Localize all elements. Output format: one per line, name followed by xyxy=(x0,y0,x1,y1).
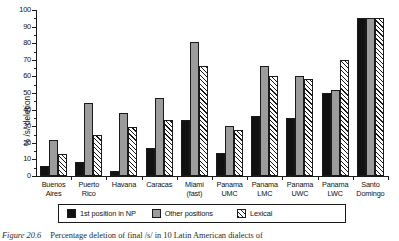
bar xyxy=(49,140,58,176)
x-axis-label: PuertoRico xyxy=(71,180,106,199)
x-axis-label-line: Panama xyxy=(318,180,353,189)
x-axis-label: SantoDomingo xyxy=(353,180,388,199)
bar-group xyxy=(106,10,141,176)
bar-group xyxy=(282,10,317,176)
bar xyxy=(58,154,67,176)
y-tick-label-70: 70 xyxy=(23,56,31,63)
y-tick-label-100: 100 xyxy=(19,6,31,13)
legend-item-lexical: Lexical xyxy=(237,209,272,218)
y-tick-0 xyxy=(32,176,37,177)
bar xyxy=(375,18,384,176)
x-axis-label: Havana xyxy=(106,180,141,189)
diagonal-hatch-swatch-icon xyxy=(237,209,246,218)
legend-label-1: Other positions xyxy=(165,209,213,218)
bar-group xyxy=(353,10,388,176)
bar xyxy=(225,126,234,176)
chart-legend: 1st position in NP Other positions Lexic… xyxy=(58,204,346,223)
y-tick-label-40: 40 xyxy=(23,106,31,113)
bar xyxy=(251,116,260,176)
bar xyxy=(269,76,278,176)
solid-black-swatch-icon xyxy=(67,209,76,218)
figure-caption-text: Percentage deletion of final /s/ in 10 L… xyxy=(50,231,263,240)
bar-group xyxy=(247,10,282,176)
bar xyxy=(93,135,102,177)
bar xyxy=(322,93,331,176)
bar xyxy=(295,76,304,176)
x-axis-label: PanamaUWC xyxy=(282,180,317,199)
bar-group xyxy=(36,10,71,176)
x-axis-label: PanamaLWC xyxy=(318,180,353,199)
x-axis-label: PanamaUMC xyxy=(212,180,247,199)
x-axis-label-line: Santo xyxy=(353,180,388,189)
x-axis-label-line: LMC xyxy=(247,189,282,198)
x-axis-label: BuenosAires xyxy=(36,180,71,199)
dotted-gray-swatch-icon xyxy=(152,209,161,218)
figure-caption: Figure 20.6Percentage deletion of final … xyxy=(2,231,398,241)
x-axis-label-line: Buenos xyxy=(36,180,71,189)
bar-group xyxy=(318,10,353,176)
x-axis-label-line: Caracas xyxy=(142,180,177,189)
bar xyxy=(40,166,49,176)
x-axis-label-line: Panama xyxy=(282,180,317,189)
bar xyxy=(286,118,295,176)
bar-group xyxy=(142,10,177,176)
x-axis-label-line: Aires xyxy=(36,189,71,198)
x-axis-label-line: UWC xyxy=(282,189,317,198)
bar xyxy=(190,42,199,176)
bar xyxy=(199,66,208,176)
bar xyxy=(146,148,155,176)
bar xyxy=(357,18,366,176)
x-axis-label-line: Panama xyxy=(247,180,282,189)
bar xyxy=(128,127,137,176)
bar xyxy=(304,79,313,176)
x-axis-label-line: UMC xyxy=(212,189,247,198)
y-tick-label-20: 20 xyxy=(23,139,31,146)
bar xyxy=(155,98,164,176)
x-axis-label-line: Puerto xyxy=(71,180,106,189)
bar xyxy=(84,103,93,176)
y-tick-label-50: 50 xyxy=(23,89,31,96)
x-axis-label-line: Domingo xyxy=(353,189,388,198)
bar xyxy=(340,60,349,176)
legend-item-other-positions: Other positions xyxy=(152,209,213,218)
legend-label-2: Lexical xyxy=(250,209,272,218)
bar-group xyxy=(212,10,247,176)
bar xyxy=(366,18,375,176)
legend-item-first-position: 1st position in NP xyxy=(67,209,136,218)
x-axis-label: Caracas xyxy=(142,180,177,189)
y-tick-label-90: 90 xyxy=(23,23,31,30)
bar xyxy=(75,162,84,176)
bar xyxy=(181,120,190,176)
figure-container: % /s/ deletion 0102030405060708090100 Bu… xyxy=(0,0,399,241)
y-tick-label-10: 10 xyxy=(23,156,31,163)
bar-group xyxy=(177,10,212,176)
x-axis-label-line: (fast) xyxy=(177,189,212,198)
bar-group xyxy=(71,10,106,176)
bar xyxy=(164,120,173,176)
x-axis-label-line: Miami xyxy=(177,180,212,189)
x-axis-label-line: Panama xyxy=(212,180,247,189)
y-tick-label-30: 30 xyxy=(23,122,31,129)
y-tick-label-0: 0 xyxy=(27,172,31,179)
x-axis-label-line: Rico xyxy=(71,189,106,198)
bar xyxy=(110,171,119,176)
legend-label-0: 1st position in NP xyxy=(80,209,136,218)
plot-area: 0102030405060708090100 xyxy=(36,10,388,176)
x-axis-label-line: Havana xyxy=(106,180,141,189)
y-tick-label-60: 60 xyxy=(23,73,31,80)
y-tick-label-80: 80 xyxy=(23,39,31,46)
bar xyxy=(331,90,340,176)
bar xyxy=(260,66,269,176)
bar xyxy=(216,153,225,176)
bar xyxy=(234,130,243,176)
x-axis-label-line: LWC xyxy=(318,189,353,198)
x-group-tick xyxy=(388,176,389,180)
figure-caption-label: Figure 20.6 xyxy=(2,231,41,240)
x-axis-label: PanamaLMC xyxy=(247,180,282,199)
bar xyxy=(119,113,128,176)
x-axis-label: Miami(fast) xyxy=(177,180,212,199)
